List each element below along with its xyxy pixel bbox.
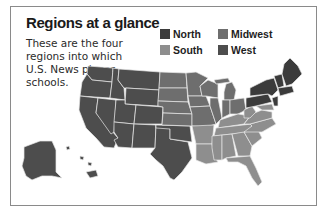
us-regions-map: [0, 0, 332, 213]
region-north: [246, 58, 302, 108]
